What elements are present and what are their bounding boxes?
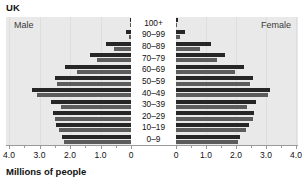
- bar: [37, 93, 131, 97]
- bar: [90, 53, 131, 57]
- bar: [53, 111, 131, 115]
- bar: [176, 30, 185, 34]
- axis-tick: [191, 145, 192, 148]
- bar: [176, 47, 200, 51]
- bar: [176, 53, 225, 57]
- bar: [176, 58, 217, 62]
- bar: [65, 65, 131, 69]
- axis-tick: [131, 145, 132, 149]
- bar-row: [176, 98, 298, 110]
- age-group-label: 100+: [131, 17, 176, 29]
- axis-tick-label: 0: [129, 150, 134, 160]
- age-group-label: 90–99: [131, 29, 176, 41]
- bar-row: [6, 52, 131, 64]
- age-group-label: 50–59: [131, 75, 176, 87]
- bar: [176, 111, 254, 115]
- bar: [176, 35, 180, 39]
- bar: [176, 117, 253, 121]
- male-bars-panel: [6, 17, 131, 145]
- axis-tick: [236, 145, 237, 149]
- age-group-label: 70–79: [131, 52, 176, 64]
- bar: [176, 88, 270, 92]
- axis-tick-labels: 4.03.02.01.0001.02.03.04.0: [0, 150, 304, 162]
- age-group-label: 80–89: [131, 40, 176, 52]
- axis-tick-label: 4.0: [3, 150, 15, 160]
- bar: [55, 117, 131, 121]
- bar: [64, 140, 131, 144]
- bar-row: [176, 64, 298, 76]
- bar-row: [176, 75, 298, 87]
- bar-row: [6, 40, 131, 52]
- bar-row: [176, 87, 298, 99]
- axis-tick-label: 3.0: [34, 150, 46, 160]
- male-bar-rows: [6, 17, 131, 145]
- age-group-label: 60–69: [131, 64, 176, 76]
- age-group-label: 30–39: [131, 98, 176, 110]
- axis-tick: [24, 145, 25, 148]
- bar: [176, 140, 238, 144]
- bar-row: [6, 75, 131, 87]
- bar-row: [176, 29, 298, 41]
- axis-tick: [101, 145, 102, 149]
- axis-tick: [176, 145, 177, 149]
- age-group-label: 10–19: [131, 122, 176, 134]
- bar-row: [176, 40, 298, 52]
- bar: [176, 82, 250, 86]
- bar-row: [6, 17, 131, 29]
- bar: [57, 82, 131, 86]
- bar-row: [6, 98, 131, 110]
- axis-tick: [70, 145, 71, 149]
- bar: [106, 42, 131, 46]
- bar-row: [176, 133, 298, 145]
- axis-tick: [281, 145, 282, 148]
- axis-tick: [40, 145, 41, 149]
- age-group-labels: 100+90–9980–8970–7960–6950–5940–4930–392…: [131, 17, 176, 145]
- bar: [176, 42, 211, 46]
- bar: [56, 123, 131, 127]
- axis-tick-label: 0: [174, 150, 179, 160]
- axis-tick-label: 2.0: [230, 150, 242, 160]
- bar-row: [6, 133, 131, 145]
- bar: [32, 88, 131, 92]
- age-group-label: 0–9: [131, 133, 176, 145]
- bar: [176, 105, 247, 109]
- bar: [176, 23, 177, 27]
- axis-tick: [206, 145, 207, 149]
- axis-tick: [251, 145, 252, 148]
- age-group-label: 20–29: [131, 110, 176, 122]
- axis-tick: [266, 145, 267, 149]
- axis-tick: [55, 145, 56, 148]
- axis-tick: [221, 145, 222, 148]
- bar: [55, 76, 131, 80]
- bar-row: [6, 29, 131, 41]
- bar: [176, 18, 178, 22]
- bar: [176, 93, 268, 97]
- axis-tick-label: 4.0: [290, 150, 302, 160]
- bar-row: [176, 52, 298, 64]
- female-bar-rows: [176, 17, 298, 145]
- bar: [176, 135, 240, 139]
- bar: [77, 70, 131, 74]
- bar: [176, 70, 235, 74]
- axis-tick-label: 2.0: [64, 150, 76, 160]
- female-bars-panel: [176, 17, 298, 145]
- chart-title: UK: [6, 2, 20, 13]
- axis-tick-label: 1.0: [200, 150, 212, 160]
- axis-tick: [85, 145, 86, 148]
- bar-row: [6, 110, 131, 122]
- bar: [97, 58, 131, 62]
- bar-row: [6, 87, 131, 99]
- axis-tick: [296, 145, 297, 149]
- axis-title: Millions of people: [6, 166, 86, 177]
- bar: [176, 100, 256, 104]
- bar-row: [6, 64, 131, 76]
- bar: [62, 135, 131, 139]
- bar: [59, 128, 131, 132]
- axis-tick-label: 3.0: [260, 150, 272, 160]
- bar: [176, 123, 249, 127]
- axis-line: [6, 145, 298, 146]
- plot-area: Male Female 100+90–9980–8970–7960–6950–5…: [6, 17, 298, 145]
- bar-row: [176, 17, 298, 29]
- bar-row: [176, 122, 298, 134]
- axis-tick-label: 1.0: [95, 150, 107, 160]
